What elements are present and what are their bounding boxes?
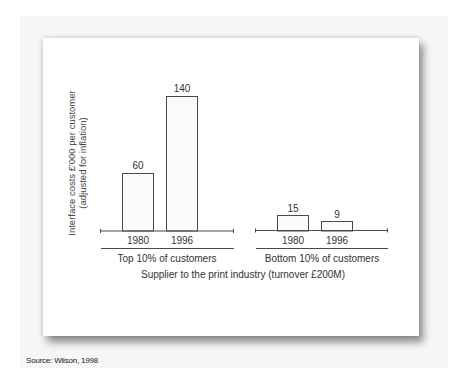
bar-top-1996: [167, 97, 198, 232]
bar-bottom-1996: [322, 222, 353, 232]
bar-chart: Interface costs £'000 per customer (adju…: [0, 0, 457, 391]
value-label-bottom-1996: 9: [334, 209, 340, 220]
bar-bottom-1980: [278, 216, 309, 232]
bar-top-1980: [123, 174, 154, 232]
category-label-bottom-1980: 1980: [282, 235, 305, 246]
group-label-bottom: Bottom 10% of customers: [265, 253, 380, 264]
source-caption: Source: Wilson, 1998: [26, 356, 98, 365]
group-bottom-10-percent: 15 9 1980 1996 Bottom 10% of customers: [255, 203, 388, 264]
y-axis-label-line2: (adjusted for inflation): [77, 117, 88, 208]
value-label-bottom-1980: 15: [287, 203, 299, 214]
y-axis-label: Interface costs £'000 per customer (adju…: [66, 90, 88, 235]
y-axis-label-line1: Interface costs £'000 per customer: [66, 90, 77, 235]
group-label-top: Top 10% of customers: [118, 253, 217, 264]
category-label-top-1996: 1996: [171, 235, 194, 246]
x-axis-title: Supplier to the print industry (turnover…: [141, 269, 345, 280]
category-label-top-1980: 1980: [127, 235, 150, 246]
category-label-bottom-1996: 1996: [326, 235, 349, 246]
value-label-top-1980: 60: [132, 160, 144, 171]
group-top-10-percent: 60 140 1980 1996 Top 10% of customers: [100, 83, 234, 264]
value-label-top-1996: 140: [174, 83, 191, 94]
